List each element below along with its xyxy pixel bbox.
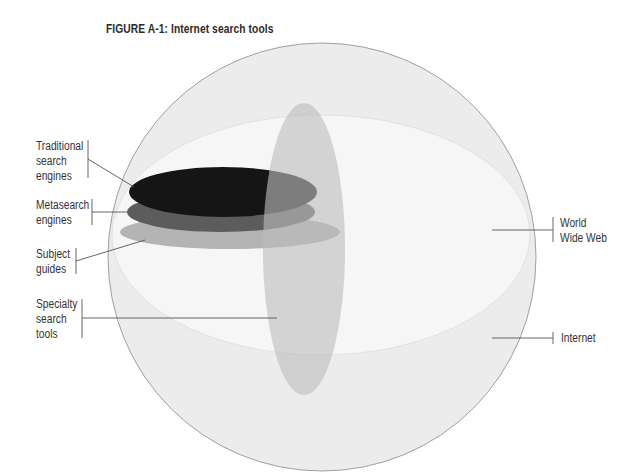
label-line: tools xyxy=(36,327,77,342)
label-line: World xyxy=(560,216,607,231)
label-line: engines xyxy=(36,213,89,228)
label-line: Traditional xyxy=(36,139,83,154)
label-world-wide-web: World Wide Web xyxy=(560,216,607,246)
label-subject-guides: Subject guides xyxy=(36,247,70,277)
label-line: search xyxy=(36,154,83,169)
label-line: search xyxy=(36,312,77,327)
label-line: guides xyxy=(36,262,70,277)
label-line: Wide Web xyxy=(560,231,607,246)
label-line: Metasearch xyxy=(36,198,89,213)
label-line: engines xyxy=(36,169,83,184)
label-line: Specialty xyxy=(36,297,77,312)
label-metasearch-engines: Metasearch engines xyxy=(36,198,89,228)
label-traditional-search-engines: Traditional search engines xyxy=(36,139,83,184)
label-internet: Internet xyxy=(561,331,596,346)
internet-search-tools-diagram xyxy=(0,0,634,474)
label-line: Subject xyxy=(36,247,70,262)
label-line: Internet xyxy=(561,331,596,346)
specialty-search-tools-ellipse xyxy=(263,103,345,395)
label-specialty-search-tools: Specialty search tools xyxy=(36,297,77,342)
